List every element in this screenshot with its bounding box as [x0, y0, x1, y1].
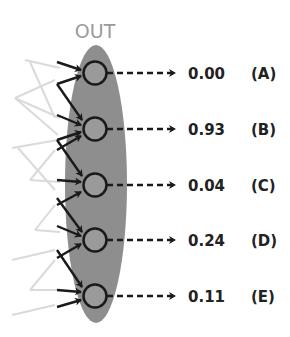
- output-node-d: [84, 229, 107, 252]
- output-label-e: (E): [251, 288, 275, 306]
- output-node-a: [84, 62, 107, 85]
- output-value-a: 0.00: [188, 65, 225, 83]
- output-node-b: [84, 118, 107, 141]
- output-node-e: [84, 285, 107, 308]
- output-label-b: (B): [251, 121, 276, 139]
- output-node-c: [84, 174, 107, 197]
- output-label-c: (C): [251, 177, 276, 195]
- output-value-c: 0.04: [188, 177, 225, 195]
- output-value-b: 0.93: [188, 121, 225, 139]
- output-value-e: 0.11: [188, 288, 225, 306]
- output-label-d: (D): [251, 232, 277, 250]
- output-layer-diagram: OUT 0.0: [0, 0, 290, 337]
- output-value-d: 0.24: [188, 232, 225, 250]
- layer-title: OUT: [75, 20, 116, 42]
- output-label-a: (A): [251, 65, 276, 83]
- faint-incoming-connections: [12, 60, 60, 315]
